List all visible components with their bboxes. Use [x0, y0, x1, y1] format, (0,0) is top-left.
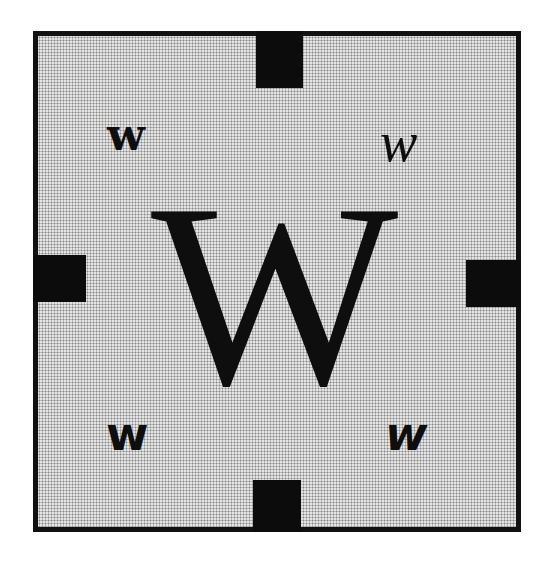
- shaded-square-frame: w w w w W: [33, 31, 521, 532]
- left-notch-block: [33, 255, 86, 302]
- corner-letter-top-left: w: [107, 113, 145, 157]
- top-notch-block: [256, 31, 303, 88]
- right-notch-block: [466, 260, 521, 307]
- center-large-letter: W: [151, 164, 398, 426]
- corner-letter-bottom-left: w: [106, 411, 149, 457]
- bottom-notch-block: [253, 480, 301, 532]
